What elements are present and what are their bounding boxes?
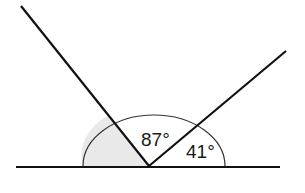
angle-diagram: 87° 41° — [0, 0, 305, 193]
angle-label-87: 87° — [141, 129, 170, 150]
angle-label-41: 41° — [186, 141, 215, 162]
